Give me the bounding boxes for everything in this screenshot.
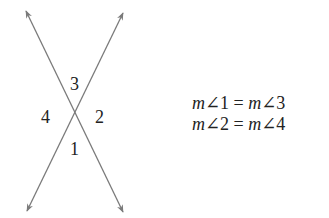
angle-ref: ∠3 — [261, 93, 285, 113]
measure-symbol: m — [192, 93, 205, 113]
equation-1: m∠1 = m∠3 — [192, 93, 285, 113]
angle-ref: ∠2 — [205, 114, 229, 134]
angle-ref: ∠1 — [205, 93, 229, 113]
angle-label-1: 1 — [70, 139, 79, 159]
intersecting-lines-diagram: 3 4 2 1 — [0, 0, 160, 218]
equation-2: m∠2 = m∠4 — [192, 114, 285, 134]
measure-symbol: m — [248, 93, 261, 113]
angle-label-2: 2 — [95, 107, 104, 127]
angle-label-4: 4 — [41, 107, 50, 127]
equals-sign: = — [229, 93, 248, 113]
angle-ref: ∠4 — [261, 114, 285, 134]
measure-symbol: m — [192, 114, 205, 134]
equals-sign: = — [229, 114, 248, 134]
measure-symbol: m — [248, 114, 261, 134]
angle-label-3: 3 — [70, 74, 79, 94]
